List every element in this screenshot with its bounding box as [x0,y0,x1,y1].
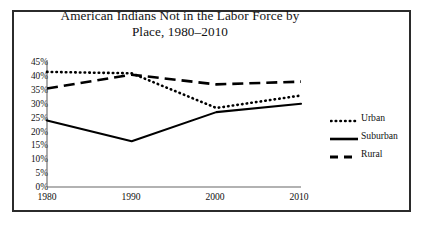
y-tick-label: 40% [18,72,48,81]
legend-swatch-dotted-icon [330,112,358,122]
legend-label: Rural [358,148,382,159]
y-tick-label: 35% [18,86,48,95]
y-tick-label: 45% [18,58,48,67]
x-tick-label: 1980 [25,192,69,202]
x-tick-label: 2000 [193,192,237,202]
y-tick-label: 20% [18,128,48,137]
legend-label: Suburban [358,130,398,141]
legend-entry-urban: Urban [330,108,406,126]
chart-figure: American Indians Not in the Labor Force … [0,0,423,225]
x-tick-label: 1990 [109,192,153,202]
y-tick-label: 15% [18,141,48,150]
chart-legend: Urban Suburban Rural [330,108,406,162]
chart-title: American Indians Not in the Labor Force … [30,8,330,40]
chart-title-line-1: American Indians Not in the Labor Force … [30,8,330,24]
y-tick-label: 30% [18,100,48,109]
y-tick-label: 25% [18,114,48,123]
chart-title-line-2: Place, 1980–2010 [30,24,330,40]
legend-entry-suburban: Suburban [330,126,406,144]
legend-swatch-dashed-icon [330,148,358,158]
y-tick-label: 5% [18,169,48,178]
legend-label: Urban [358,112,385,123]
legend-swatch-solid-icon [330,130,358,140]
y-tick-label: 10% [18,155,48,164]
x-tick-label: 2010 [277,192,321,202]
legend-entry-rural: Rural [330,144,406,162]
